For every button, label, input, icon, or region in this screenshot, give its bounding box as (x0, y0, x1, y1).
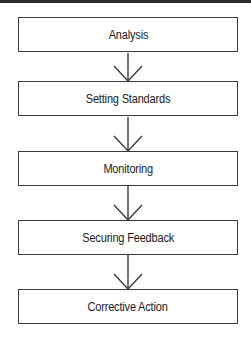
arrow-down-icon (114, 117, 142, 151)
connector-arrows (0, 0, 251, 342)
arrow-down-icon (114, 186, 142, 220)
arrow-down-icon (114, 255, 142, 289)
arrow-down-icon (114, 53, 142, 81)
